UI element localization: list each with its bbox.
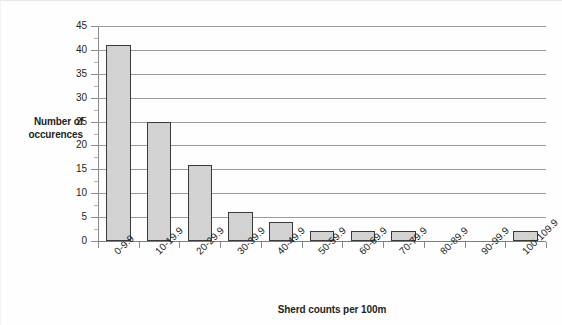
x-tick xyxy=(505,242,506,248)
bar-0-9.9[interactable] xyxy=(106,45,130,241)
x-tick xyxy=(139,242,140,248)
x-axis-title-text: Sherd counts per 100m xyxy=(278,304,387,315)
y-tick-label-15: 15 xyxy=(63,163,87,174)
bar-20-29.9[interactable] xyxy=(188,165,212,241)
bar-10-19.9[interactable] xyxy=(147,122,171,241)
y-tick-label-0: 0 xyxy=(63,235,87,246)
x-tick xyxy=(261,242,262,248)
x-tick xyxy=(302,242,303,248)
x-tick xyxy=(342,242,343,248)
y-tick-label-45: 45 xyxy=(63,20,87,31)
plot-area xyxy=(98,26,546,241)
y-tick-20 xyxy=(91,145,98,146)
chart-figure: Number of occurences 051015202530354045 … xyxy=(0,0,562,325)
x-axis-category-labels: 0-9.910-19.920-29.930-39.940-49.950-59.9… xyxy=(98,249,546,297)
x-tick xyxy=(383,242,384,248)
y-tick-label-40: 40 xyxy=(63,44,87,55)
gridline-45 xyxy=(98,26,546,27)
y-tick-25 xyxy=(91,122,98,123)
x-axis-title: Sherd counts per 100m xyxy=(1,304,562,315)
y-tick-label-20: 20 xyxy=(63,139,87,150)
x-tick xyxy=(546,242,547,248)
x-tick xyxy=(424,242,425,248)
x-tick xyxy=(220,242,221,248)
y-tick-30 xyxy=(91,98,98,99)
gridline-35 xyxy=(98,74,546,75)
y-tick-35 xyxy=(91,74,98,75)
x-tick xyxy=(465,242,466,248)
y-tick-40 xyxy=(91,50,98,51)
y-tick-45 xyxy=(91,26,98,27)
y-tick-label-10: 10 xyxy=(63,187,87,198)
y-tick-5 xyxy=(91,217,98,218)
x-tick xyxy=(179,242,180,248)
y-tick-15 xyxy=(91,169,98,170)
y-tick-0 xyxy=(91,241,98,242)
y-tick-label-5: 5 xyxy=(63,211,87,222)
y-tick-label-30: 30 xyxy=(63,92,87,103)
y-tick-label-35: 35 xyxy=(63,68,87,79)
gridline-30 xyxy=(98,98,546,99)
x-tick xyxy=(98,242,99,248)
y-tick-label-25: 25 xyxy=(63,116,87,127)
y-tick-10 xyxy=(91,193,98,194)
gridline-40 xyxy=(98,50,546,51)
